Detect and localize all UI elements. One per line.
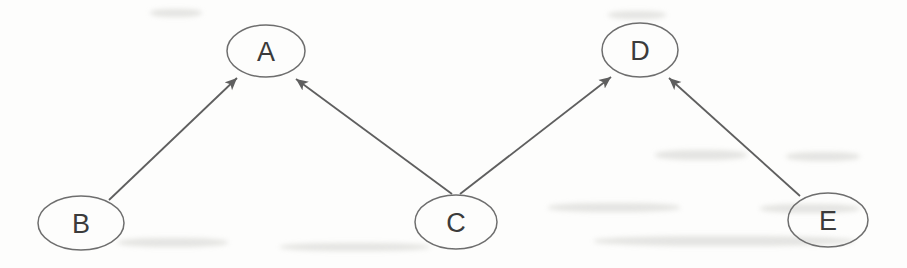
- node-B: B: [38, 196, 124, 250]
- node-A-label: A: [257, 37, 275, 67]
- scanned-page: ABCDE: [0, 0, 907, 268]
- nodes-layer: ABCDE: [38, 23, 868, 250]
- edge-C-to-D: [460, 77, 611, 194]
- node-B-label: B: [72, 209, 90, 239]
- node-E-label: E: [819, 206, 837, 236]
- node-C-label: C: [446, 208, 466, 238]
- node-D-label: D: [630, 36, 650, 66]
- dag-diagram: ABCDE: [0, 0, 907, 268]
- edges-layer: [109, 77, 800, 200]
- node-E: E: [788, 193, 868, 247]
- edge-C-to-A: [296, 79, 452, 194]
- edge-E-to-D: [669, 78, 800, 196]
- node-C: C: [415, 195, 497, 249]
- node-A: A: [227, 25, 305, 77]
- edge-B-to-A: [109, 78, 237, 200]
- node-D: D: [602, 23, 678, 77]
